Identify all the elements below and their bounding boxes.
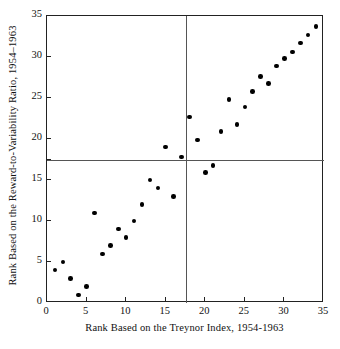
data-point	[203, 170, 208, 175]
y-axis-tick-label: 10	[16, 213, 42, 224]
y-axis-tick	[46, 56, 51, 57]
x-axis-tick-label: 25	[229, 305, 259, 316]
y-axis-tick-label: 5	[16, 254, 42, 265]
data-point	[274, 64, 279, 69]
data-point	[250, 89, 255, 94]
data-point	[211, 163, 216, 168]
y-axis-tick-label: 0	[16, 295, 42, 306]
x-axis-tick	[204, 297, 205, 302]
data-point	[187, 115, 192, 120]
data-point	[84, 284, 89, 289]
data-point	[100, 252, 105, 257]
data-point	[124, 235, 129, 240]
data-point	[195, 138, 200, 143]
x-axis-tick	[244, 297, 245, 302]
data-point	[298, 41, 303, 46]
y-axis-tick-label: 35	[16, 8, 42, 19]
x-axis-tick-label: 10	[110, 305, 140, 316]
data-point	[116, 227, 121, 232]
y-axis-median-tick	[46, 159, 51, 160]
data-point	[306, 33, 311, 38]
data-point	[219, 129, 224, 134]
data-point	[243, 105, 248, 110]
data-point	[148, 178, 153, 183]
x-axis-tick-label: 5	[71, 305, 101, 316]
x-axis-tick-label: 20	[189, 305, 219, 316]
data-point	[92, 211, 97, 216]
y-axis-label-text: Rank Based on the Reward-to-Variability …	[7, 25, 18, 285]
x-axis-tick-label: 15	[150, 305, 180, 316]
data-point	[171, 194, 176, 199]
data-point	[266, 81, 271, 86]
x-axis-tick	[125, 297, 126, 302]
y-axis-tick	[46, 261, 51, 262]
data-point	[179, 155, 184, 160]
x-axis-tick-label: 35	[308, 305, 338, 316]
x-axis-tick-label: 0	[31, 305, 61, 316]
y-axis-tick	[46, 97, 51, 98]
x-axis-tick	[165, 297, 166, 302]
median-line-horizontal	[47, 160, 324, 161]
data-point	[227, 97, 232, 102]
x-axis-tick	[86, 297, 87, 302]
x-axis-tick	[283, 297, 284, 302]
data-point	[290, 50, 295, 55]
y-axis-tick	[46, 138, 51, 139]
data-point	[235, 122, 240, 127]
data-point	[156, 186, 161, 191]
y-axis-tick	[46, 220, 51, 221]
y-axis-tick	[46, 179, 51, 180]
scatter-chart-figure: Rank Based on the Reward-to-Variability …	[0, 0, 340, 349]
data-point	[53, 268, 58, 273]
data-point	[61, 260, 66, 265]
data-point	[314, 24, 319, 29]
data-point	[68, 276, 73, 281]
y-axis-tick-label: 20	[16, 131, 42, 142]
data-point	[140, 202, 145, 207]
data-point	[132, 219, 137, 224]
data-point	[163, 145, 168, 150]
data-point	[108, 243, 113, 248]
x-axis-label: Rank Based on the Treynor Index, 1954-19…	[46, 322, 323, 333]
y-axis-tick-label: 25	[16, 90, 42, 101]
plot-area	[46, 15, 323, 302]
data-point	[76, 293, 81, 298]
y-axis-tick-label: 15	[16, 172, 42, 183]
data-point	[258, 74, 263, 79]
data-point	[282, 56, 287, 61]
y-axis-tick-label: 30	[16, 49, 42, 60]
x-axis-tick-label: 30	[268, 305, 298, 316]
